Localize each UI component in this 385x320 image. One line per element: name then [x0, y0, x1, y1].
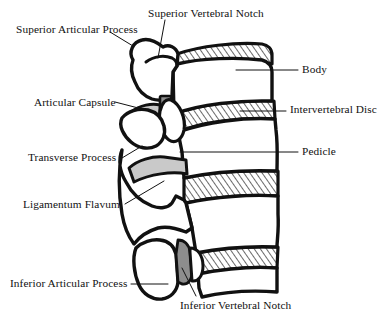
transverse-process: [121, 109, 165, 148]
label-intervertebral-disc: Intervertebral Disc: [290, 104, 377, 115]
superior-articular-process: [131, 40, 178, 100]
label-inferior-vertebral-notch: Inferior Vertebral Notch: [180, 300, 291, 311]
vertebral-body-bottom: [198, 267, 277, 297]
label-body: Body: [302, 64, 327, 75]
leader-transverse-process: [122, 146, 142, 158]
vertebral-body-middle: [178, 119, 277, 178]
vertebral-column-group: [110, 20, 298, 299]
label-superior-vertebral-notch: Superior Vertebral Notch: [148, 8, 264, 19]
inferior-articular-process: [134, 240, 178, 299]
label-inferior-articular-process: Inferior Articular Process: [10, 278, 127, 289]
ligamentum-flavum-1: [129, 157, 187, 182]
label-articular-capsule: Articular Capsule: [34, 97, 116, 108]
vertebral-body-lower: [186, 195, 278, 253]
anatomy-figure: Superior Articular Process Superior Vert…: [0, 0, 385, 320]
label-superior-articular-process: Superior Articular Process: [16, 24, 138, 35]
label-transverse-process: Transverse Process: [28, 152, 116, 163]
label-ligamentum-flavum: Ligamentum Flavum: [23, 199, 120, 210]
label-pedicle: Pedicle: [302, 146, 336, 157]
facet-joint-lower: [190, 248, 203, 281]
